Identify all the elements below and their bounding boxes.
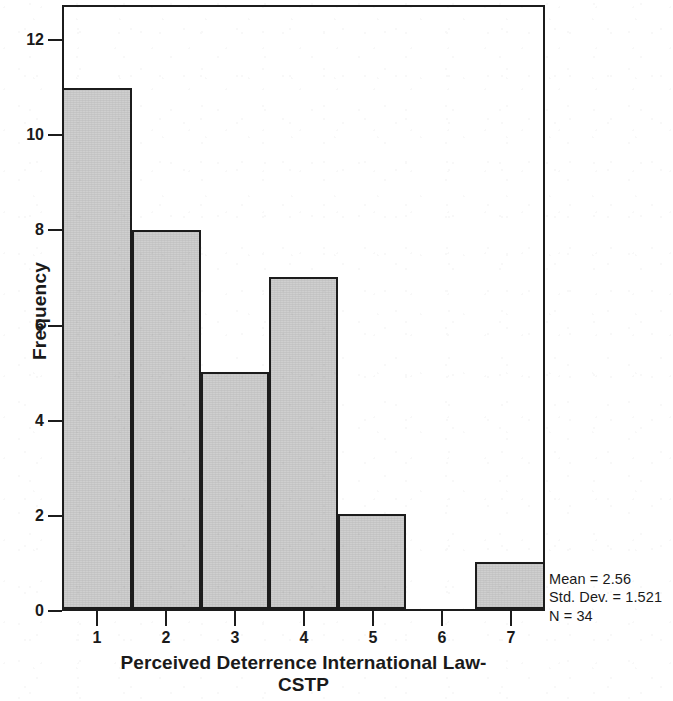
x-axis-title-line-2: CSTP: [62, 674, 545, 696]
x-tick-label-6: 6: [427, 630, 457, 646]
x-tick-label-4: 4: [289, 630, 319, 646]
plot-area: [62, 5, 545, 611]
bar-category-2: [132, 230, 200, 609]
statistics-annotation: Mean = 2.56 Std. Dev. = 1.521 N = 34: [549, 570, 662, 625]
y-tick-label-0: 0: [22, 603, 44, 619]
y-tick-label-12: 12: [13, 32, 44, 48]
stat-n: N = 34: [549, 607, 662, 625]
y-tick-0: [48, 610, 62, 612]
x-tick-1: [96, 611, 98, 626]
x-tick-label-2: 2: [151, 630, 181, 646]
x-tick-label-3: 3: [220, 630, 250, 646]
y-tick-10: [48, 134, 62, 136]
histogram-figure: 0 2 4 6 8 10 12 Frequency 1 2 3 4 5 6 7: [0, 0, 673, 701]
bar-category-4: [269, 277, 337, 609]
x-tick-3: [234, 611, 236, 626]
stat-mean: Mean = 2.56: [549, 570, 662, 588]
x-axis-title: Perceived Deterrence International Law- …: [62, 652, 545, 697]
y-tick-label-4: 4: [22, 413, 44, 429]
bar-category-7: [475, 562, 545, 609]
bar-category-1: [62, 88, 132, 609]
x-tick-2: [165, 611, 167, 626]
y-tick-4: [48, 420, 62, 422]
x-tick-7: [510, 611, 512, 626]
x-tick-5: [372, 611, 374, 626]
bar-category-3: [201, 372, 269, 609]
y-tick-12: [48, 39, 62, 41]
x-tick-label-5: 5: [358, 630, 388, 646]
x-tick-label-1: 1: [82, 630, 112, 646]
bar-category-5: [338, 514, 406, 609]
x-tick-4: [303, 611, 305, 626]
x-axis-title-line-1: Perceived Deterrence International Law-: [62, 652, 545, 674]
y-tick-2: [48, 515, 62, 517]
y-tick-label-10: 10: [13, 127, 44, 143]
x-tick-label-7: 7: [496, 630, 526, 646]
y-tick-label-2: 2: [22, 508, 44, 524]
x-tick-6: [441, 611, 443, 626]
stat-stddev: Std. Dev. = 1.521: [549, 588, 662, 606]
y-axis-title: Frequency: [29, 231, 51, 391]
